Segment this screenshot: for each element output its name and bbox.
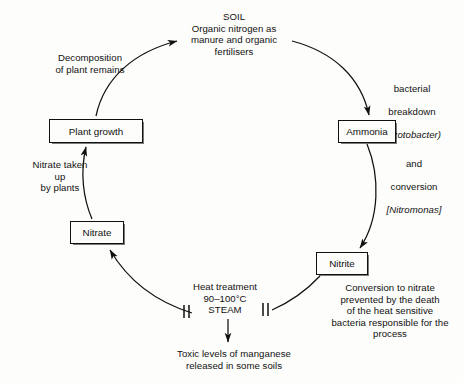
bacterial-line-2: breakdown — [388, 106, 435, 117]
node-ammonia: Ammonia — [338, 120, 396, 143]
node-nitrate: Nitrate — [70, 221, 124, 244]
conversion-line-1: and — [406, 158, 422, 169]
node-plant-growth: Plant growth — [49, 119, 143, 143]
bacterial-line-1: bacterial — [394, 83, 431, 94]
conversion-line-2: conversion — [391, 181, 438, 192]
decomposition-label: Decomposition of plant remains — [24, 52, 156, 75]
nitrate-uptake-label: Nitrate taken up by plants — [8, 159, 112, 194]
soil-label: SOIL Organic nitrogen as manure and orga… — [158, 11, 310, 57]
toxic-manganese-label: Toxic levels of manganese released in so… — [145, 348, 323, 371]
conversion-organism: [Nitromonas] — [387, 204, 442, 215]
node-nitrite: Nitrite — [316, 252, 368, 275]
heat-treatment-label: Heat treatment 90–100°C STEAM — [170, 281, 280, 316]
conversion-prevented-label: Conversion to nitrate prevented by the d… — [318, 282, 462, 340]
conversion-nitromonas-label: and conversion [Nitromonas] — [366, 146, 462, 216]
nitrogen-cycle-diagram: SOIL Organic nitrogen as manure and orga… — [0, 0, 463, 383]
